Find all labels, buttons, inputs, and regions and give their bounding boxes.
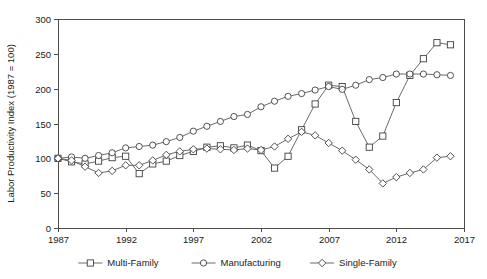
legend-label-manufacturing: Manufacturing — [221, 257, 281, 268]
data-point — [231, 113, 237, 119]
series-line — [58, 74, 450, 158]
line-chart: 0501001502002503001987199219972002200720… — [0, 0, 487, 279]
data-point — [204, 123, 210, 129]
data-point — [434, 40, 440, 46]
x-tick-label: 2007 — [319, 234, 340, 245]
data-point — [122, 162, 129, 169]
data-point — [136, 143, 142, 149]
data-point — [339, 147, 346, 154]
y-tick-label: 0 — [46, 223, 51, 234]
data-point — [312, 101, 318, 107]
data-point — [311, 132, 318, 139]
data-point — [284, 135, 291, 142]
y-tick-label: 200 — [35, 84, 51, 95]
data-point — [380, 133, 386, 139]
data-point — [447, 42, 453, 48]
data-point — [271, 143, 278, 150]
data-point — [271, 98, 277, 104]
data-point — [393, 173, 400, 180]
y-tick-label: 300 — [35, 14, 51, 25]
data-point — [96, 152, 102, 158]
legend-label-single-family: Single-Family — [339, 257, 397, 268]
series-multi-family — [55, 40, 454, 177]
x-tick-label: 1992 — [116, 234, 137, 245]
data-point — [82, 155, 88, 161]
data-point — [352, 156, 359, 163]
x-tick-label: 2012 — [386, 234, 407, 245]
data-point — [447, 72, 453, 78]
plot-frame — [59, 20, 465, 229]
data-point — [434, 72, 440, 78]
data-point — [420, 56, 426, 62]
data-point — [123, 145, 129, 151]
data-point — [325, 139, 332, 146]
data-point — [136, 162, 143, 169]
data-point — [420, 71, 426, 77]
data-point — [108, 167, 115, 174]
series-line — [58, 132, 450, 184]
data-point — [366, 77, 372, 83]
data-point — [393, 71, 399, 77]
y-tick-label: 50 — [40, 188, 51, 199]
data-point — [150, 142, 156, 148]
data-point — [163, 139, 169, 145]
chart-figure: 0501001502002503001987199219972002200720… — [0, 0, 487, 279]
legend-marker-circle — [200, 260, 206, 266]
chart-legend: Multi-FamilyManufacturingSingle-Family — [78, 257, 397, 268]
legend-marker-diamond — [318, 259, 325, 266]
data-point — [258, 104, 264, 110]
data-point — [136, 171, 142, 177]
data-point — [380, 74, 386, 80]
data-point — [312, 87, 318, 93]
data-point — [393, 100, 399, 106]
data-point — [406, 169, 413, 176]
y-tick-label: 100 — [35, 153, 51, 164]
data-point — [353, 82, 359, 88]
data-point — [109, 150, 115, 156]
x-tick-label: 2002 — [251, 234, 272, 245]
y-tick-label: 250 — [35, 49, 51, 60]
data-point — [95, 169, 102, 176]
y-tick-label: 150 — [35, 119, 51, 130]
data-point — [163, 151, 170, 158]
data-point — [123, 153, 129, 159]
data-point — [299, 90, 305, 96]
data-point — [366, 144, 372, 150]
data-point — [326, 83, 332, 89]
data-point — [447, 153, 454, 160]
data-point — [339, 86, 345, 92]
data-point — [190, 128, 196, 134]
x-tick-label: 1997 — [183, 234, 204, 245]
data-point — [217, 118, 223, 124]
series-line — [58, 43, 450, 174]
x-tick-label: 1987 — [48, 234, 69, 245]
data-point — [177, 134, 183, 140]
data-point — [285, 93, 291, 99]
x-tick-label: 2017 — [454, 234, 475, 245]
data-point — [244, 111, 250, 117]
data-point — [407, 71, 413, 77]
legend-label-multi-family: Multi-Family — [107, 257, 158, 268]
data-point — [271, 165, 277, 171]
data-point — [285, 153, 291, 159]
legend-marker-square — [87, 260, 93, 266]
data-point — [353, 118, 359, 124]
y-axis-title: Labor Productivity Index (1987 = 100) — [5, 44, 16, 203]
